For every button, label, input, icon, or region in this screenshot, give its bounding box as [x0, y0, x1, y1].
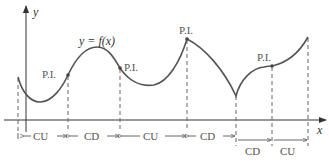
concavity-diagram: y x P.I. P.I. P.I. P.I. y = f(x) C — [0, 0, 329, 162]
interval-label-2: CD — [84, 130, 99, 142]
interval-arrows — [18, 133, 307, 140]
x-axis-label: x — [316, 123, 323, 137]
y-axis-label: y — [32, 5, 39, 19]
pi-label-2: P.I. — [124, 61, 138, 73]
function-label: y = f(x) — [78, 34, 115, 48]
interval-label-1: CU — [33, 130, 48, 142]
interval-label-4: CD — [200, 130, 215, 142]
interval-label-3: CU — [143, 130, 158, 142]
pi-label-3: P.I. — [179, 24, 193, 36]
function-curve — [18, 37, 308, 102]
interval-label-5: CD — [245, 145, 260, 157]
interval-label-6: CU — [280, 145, 295, 157]
pi-label-1: P.I. — [42, 68, 56, 80]
pi-label-4: P.I. — [257, 51, 271, 63]
